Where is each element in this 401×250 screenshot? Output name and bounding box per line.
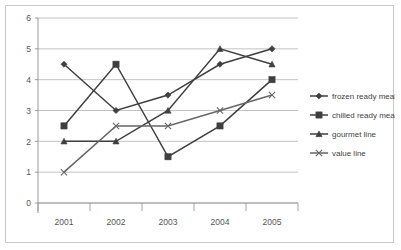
- x-axis-label: 2005: [263, 217, 282, 227]
- x-axis-label: 2002: [107, 217, 126, 227]
- data-point: [269, 46, 275, 52]
- legend-label: value line: [332, 149, 366, 158]
- y-axis-label: 1: [26, 167, 31, 177]
- x-axis-label: 2001: [55, 217, 74, 227]
- x-axis-label: 2004: [211, 217, 230, 227]
- axes-group: [35, 18, 298, 213]
- chart-frame: 0123456 20012002200320042005 frozen read…: [5, 5, 394, 243]
- x-axis-ticks-group: [38, 203, 298, 211]
- y-axis-label: 6: [26, 13, 31, 23]
- x-axis-labels-group: 20012002200320042005: [55, 217, 282, 227]
- legend-label: gourmet line: [332, 130, 377, 139]
- data-point: [61, 123, 67, 129]
- line-chart: 0123456 20012002200320042005 frozen read…: [6, 6, 395, 244]
- legend-item[interactable]: value line: [310, 149, 366, 158]
- legend-item[interactable]: chilled ready meals: [310, 111, 395, 120]
- legend-label: frozen ready meals: [332, 92, 395, 101]
- legend: frozen ready mealschilled ready mealsgou…: [310, 92, 395, 158]
- y-axis-label: 4: [26, 75, 31, 85]
- legend-item[interactable]: frozen ready meals: [310, 92, 395, 101]
- legend-square-marker-icon: [316, 112, 322, 118]
- x-axis-label: 2003: [159, 217, 178, 227]
- legend-item[interactable]: gourmet line: [310, 130, 377, 139]
- chart-canvas: 0123456 20012002200320042005 frozen read…: [6, 6, 395, 244]
- data-point: [217, 61, 223, 67]
- y-axis-labels-group: 0123456: [26, 13, 31, 208]
- y-axis-label: 3: [26, 106, 31, 116]
- series-value-line: [61, 92, 275, 175]
- data-point: [269, 77, 275, 83]
- legend-diamond-marker-icon: [316, 93, 322, 99]
- legend-label: chilled ready meals: [332, 111, 395, 120]
- data-point: [217, 123, 223, 129]
- data-point: [165, 154, 171, 160]
- data-point: [165, 92, 171, 98]
- y-axis-label: 5: [26, 44, 31, 54]
- data-point: [113, 61, 119, 67]
- y-axis-label: 0: [26, 198, 31, 208]
- y-axis-label: 2: [26, 137, 31, 147]
